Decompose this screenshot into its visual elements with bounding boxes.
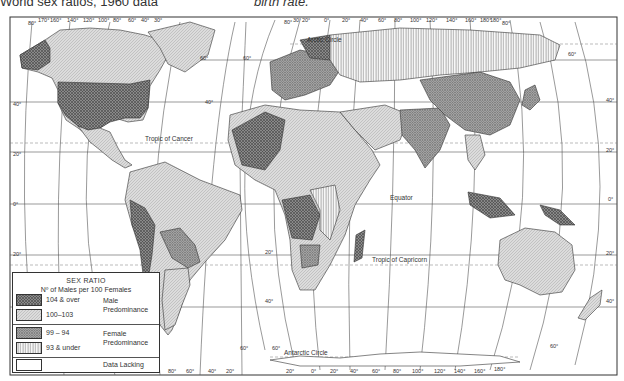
dense-diagonal-swatch bbox=[16, 327, 42, 339]
svg-text:80°: 80° bbox=[28, 20, 36, 26]
svg-text:20°: 20° bbox=[342, 17, 350, 23]
antarctic-circle-label: Antarctic Circle bbox=[284, 349, 328, 356]
svg-text:60°: 60° bbox=[186, 368, 194, 374]
svg-text:160°: 160° bbox=[465, 17, 476, 23]
tropic-of-cancer-label: Tropic of Cancer bbox=[145, 135, 194, 143]
new-zealand bbox=[578, 290, 602, 320]
svg-text:20°: 20° bbox=[265, 249, 273, 255]
svg-text:100°: 100° bbox=[98, 17, 109, 23]
legend: SEX RATIO Nº of Males per 100 Females 10… bbox=[12, 272, 160, 373]
mexico-central-america bbox=[78, 126, 132, 168]
svg-text:40°: 40° bbox=[606, 97, 614, 103]
svg-text:80°: 80° bbox=[394, 17, 402, 23]
light-crosshatch-swatch bbox=[16, 309, 42, 321]
argentina bbox=[162, 268, 190, 330]
svg-text:60°: 60° bbox=[378, 17, 386, 23]
svg-text:20°: 20° bbox=[13, 251, 21, 257]
svg-text:140°: 140° bbox=[446, 17, 457, 23]
svg-text:120°: 120° bbox=[426, 17, 437, 23]
dark-crosshatch-swatch bbox=[16, 294, 42, 306]
madagascar bbox=[354, 230, 365, 262]
svg-text:60°: 60° bbox=[200, 55, 208, 61]
svg-text:0°: 0° bbox=[311, 368, 316, 374]
svg-text:20°: 20° bbox=[606, 147, 614, 153]
svg-text:20°: 20° bbox=[302, 17, 310, 23]
svg-text:30°: 30° bbox=[154, 17, 162, 23]
svg-text:40°: 40° bbox=[13, 101, 21, 107]
svg-text:0°: 0° bbox=[608, 196, 613, 202]
svg-text:80°: 80° bbox=[168, 368, 176, 374]
svg-text:40°: 40° bbox=[265, 298, 273, 304]
svg-text:120°: 120° bbox=[434, 368, 445, 374]
svg-text:80°: 80° bbox=[284, 19, 292, 25]
legend-title: SEX RATIO bbox=[13, 276, 159, 285]
svg-text:80°: 80° bbox=[113, 17, 121, 23]
svg-text:60°: 60° bbox=[243, 55, 251, 61]
svg-text:20°: 20° bbox=[606, 250, 614, 256]
svg-text:40°: 40° bbox=[205, 99, 213, 105]
india bbox=[400, 108, 450, 168]
svg-text:80°: 80° bbox=[393, 368, 401, 374]
male-predominance-label: Male Predominance bbox=[103, 296, 148, 314]
svg-text:100°: 100° bbox=[410, 17, 421, 23]
svg-text:40°: 40° bbox=[360, 17, 368, 23]
southern-africa-region bbox=[300, 245, 320, 268]
svg-text:120°: 120° bbox=[83, 17, 94, 23]
blank-swatch bbox=[16, 359, 42, 371]
bottom-longitude-labels: 100° 80° 60° 40° 20° 20° 0° 20° 40° 60° … bbox=[148, 366, 505, 374]
svg-text:60°: 60° bbox=[240, 345, 248, 351]
svg-text:40°: 40° bbox=[208, 368, 216, 374]
svg-text:20°: 20° bbox=[226, 368, 234, 374]
svg-text:60°: 60° bbox=[128, 17, 136, 23]
svg-text:160°: 160° bbox=[474, 368, 485, 374]
svg-text:0°: 0° bbox=[13, 201, 18, 207]
svg-text:60°: 60° bbox=[568, 51, 576, 57]
legend-divider bbox=[13, 357, 159, 358]
svg-text:100°: 100° bbox=[412, 368, 423, 374]
svg-text:20°: 20° bbox=[286, 368, 294, 374]
australia bbox=[498, 228, 575, 295]
svg-text:0°: 0° bbox=[324, 17, 329, 23]
svg-text:160°: 160° bbox=[50, 17, 61, 23]
svg-text:60°: 60° bbox=[550, 343, 558, 349]
legend-subtitle: Nº of Males per 100 Females bbox=[13, 285, 159, 294]
tropic-of-capricorn-label: Tropic of Capricorn bbox=[372, 256, 427, 264]
svg-text:40°: 40° bbox=[606, 298, 614, 304]
new-guinea bbox=[540, 205, 575, 225]
vertical-lines-swatch bbox=[16, 342, 42, 354]
svg-text:140°: 140° bbox=[454, 368, 465, 374]
svg-text:60°: 60° bbox=[272, 345, 280, 351]
svg-text:20°: 20° bbox=[13, 151, 21, 157]
legend-divider bbox=[13, 324, 159, 325]
female-predominance-label: Female Predominance bbox=[103, 329, 148, 347]
legend-item-data-lacking: Data Lacking bbox=[16, 359, 156, 373]
svg-text:140°: 140° bbox=[67, 17, 78, 23]
southeast-asia bbox=[465, 135, 485, 170]
svg-text:180°: 180° bbox=[494, 366, 505, 372]
svg-text:60°: 60° bbox=[372, 368, 380, 374]
arctic-circle-label: Arctic Circle bbox=[307, 36, 342, 43]
svg-text:80°: 80° bbox=[502, 20, 510, 26]
svg-text:40°: 40° bbox=[350, 368, 358, 374]
svg-text:40°: 40° bbox=[141, 17, 149, 23]
svg-text:30°: 30° bbox=[293, 17, 301, 23]
svg-text:170°: 170° bbox=[38, 17, 49, 23]
equator-label: Equator bbox=[390, 194, 414, 202]
ussr bbox=[330, 28, 560, 82]
top-longitude-labels-right: 80° 30° 20° 0° 20° 40° 60° 80° 100° 120°… bbox=[284, 17, 510, 26]
svg-text:180°: 180° bbox=[490, 17, 501, 23]
svg-text:20°: 20° bbox=[330, 368, 338, 374]
top-longitude-labels-left: 80° 170° 160° 140° 120° 100° 80° 60° 40°… bbox=[28, 17, 162, 26]
indonesia bbox=[468, 192, 515, 218]
japan bbox=[522, 85, 540, 110]
